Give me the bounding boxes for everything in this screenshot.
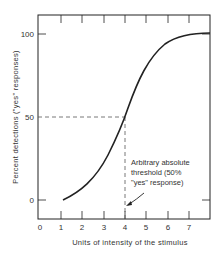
- y-tick-50: 50: [25, 113, 34, 122]
- annotation-line-3: "yes" response): [131, 178, 184, 187]
- y-tick-0: 0: [30, 196, 35, 205]
- x-tick-4: 4: [123, 223, 128, 232]
- annotation-line-1: Arbitrary absolute: [131, 158, 190, 167]
- y-axis-title: Percent detections ("yes" responses): [11, 50, 20, 184]
- top-ticks: [61, 15, 189, 23]
- x-tick-2: 2: [80, 223, 85, 232]
- right-ticks: [202, 34, 210, 200]
- y-tick-100: 100: [21, 30, 35, 39]
- x-tick-0: 0: [38, 223, 43, 232]
- x-tick-7: 7: [187, 223, 192, 232]
- x-tick-6: 6: [166, 223, 171, 232]
- psychometric-chart: Arbitrary absolute threshold (50% "yes" …: [0, 0, 221, 257]
- x-tick-5: 5: [144, 223, 149, 232]
- x-axis-title: Units of intensity of the stimulus: [72, 238, 188, 247]
- x-tick-3: 3: [102, 223, 107, 232]
- x-tick-1: 1: [59, 223, 64, 232]
- annotation-line-2: threshold (50%: [131, 168, 182, 177]
- annotation-arrow: [126, 193, 144, 206]
